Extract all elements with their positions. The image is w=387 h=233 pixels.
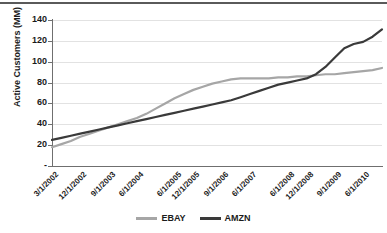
legend-label: EBAY — [161, 214, 185, 223]
y-tick-mark — [48, 124, 52, 125]
y-tick-mark — [48, 83, 52, 84]
y-tick-mark — [48, 20, 52, 21]
y-tick-mark — [48, 62, 52, 63]
x-axis-tick-labels: 3/1/200212/1/20029/1/20036/1/20046/1/200… — [0, 0, 387, 233]
y-tick-mark — [48, 145, 52, 146]
chart-container: Active Customers (MM) -20406080100120140… — [0, 0, 387, 233]
legend-swatch-icon — [200, 217, 221, 220]
y-tick-mark — [48, 166, 52, 167]
y-tick-mark — [48, 41, 52, 42]
legend-item-amzn[interactable]: AMZN — [200, 214, 251, 223]
x-tick-label: 3/1/2002 — [10, 170, 60, 220]
legend-item-ebay[interactable]: EBAY — [136, 214, 185, 223]
chart-legend: EBAYAMZN — [0, 214, 387, 223]
legend-label: AMZN — [225, 214, 251, 223]
legend-swatch-icon — [136, 217, 157, 220]
y-tick-mark — [48, 103, 52, 104]
